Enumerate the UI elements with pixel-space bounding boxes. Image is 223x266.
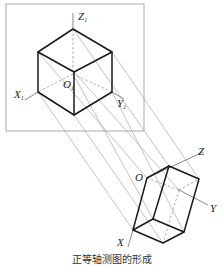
y1-label: Y1 [117, 97, 126, 110]
x1-axis [25, 92, 38, 100]
figure-caption: 正等轴测图的形成 [0, 251, 223, 266]
z-label: Z [198, 145, 205, 157]
projection-plane-frame [6, 4, 144, 131]
upper-cube: Z1 X1 Y1 O1 [13, 10, 126, 115]
x-label: X [116, 236, 125, 248]
o-label: O [135, 171, 143, 183]
hidden-edges [38, 29, 112, 92]
o1-label: O1 [63, 78, 74, 91]
y-label: Y [210, 202, 218, 214]
projection-lines [38, 29, 199, 243]
x-axis [128, 230, 133, 247]
x1-label: X1 [13, 88, 24, 101]
projected-shape: Z Y X O [116, 145, 218, 248]
z1-label: Z1 [78, 10, 87, 23]
